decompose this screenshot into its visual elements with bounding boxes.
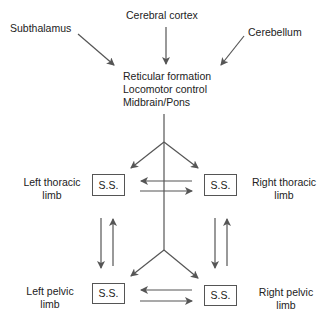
left-thoracic-line1: Left thoracic [18,176,86,189]
left-thoracic-line2: limb [18,189,86,202]
diagram-connections [0,0,325,311]
label-cerebral-cortex: Cerebral cortex [126,9,198,22]
right-thoracic-line2: limb [248,189,320,202]
label-right-pelvic-limb: Right pelvic limb [254,286,318,311]
arrow-to-right-thoracic [164,142,198,168]
label-subthalamus: Subthalamus [10,22,71,35]
arrow-to-left-pelvic [131,250,164,276]
center-line-locomotor-control: Locomotor control [123,83,211,96]
left-pelvic-line1: Left pelvic [18,285,82,298]
ss-box-right-thoracic: S.S. [204,174,237,196]
right-pelvic-line1: Right pelvic [254,286,318,299]
right-pelvic-line2: limb [254,299,318,311]
label-left-thoracic-limb: Left thoracic limb [18,176,86,202]
ss-box-right-pelvic: S.S. [204,285,237,306]
ss-box-left-thoracic: S.S. [92,174,125,196]
center-reticular-block: Reticular formation Locomotor control Mi… [123,70,211,109]
left-pelvic-line2: limb [18,298,82,311]
arrow-to-left-thoracic [131,142,164,168]
center-line-midbrain-pons: Midbrain/Pons [123,96,211,109]
arrow-subthalamus-to-reticular [78,34,114,65]
arrow-to-right-pelvic [164,250,198,278]
right-thoracic-line1: Right thoracic [248,176,320,189]
arrow-cerebellum-to-reticular [221,36,244,65]
label-right-thoracic-limb: Right thoracic limb [248,176,320,202]
label-cerebellum: Cerebellum [248,26,302,39]
ss-box-left-pelvic: S.S. [92,283,125,304]
center-line-reticular-formation: Reticular formation [123,70,211,83]
label-left-pelvic-limb: Left pelvic limb [18,285,82,311]
